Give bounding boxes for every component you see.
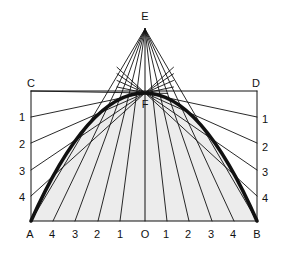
left-mark-label-1: 1	[19, 112, 25, 123]
bottom-mark-label-4: 1	[117, 229, 123, 240]
diagram-drawing	[0, 0, 282, 256]
point-label-f: F	[142, 99, 149, 110]
right-mark-label-2: 2	[262, 142, 268, 153]
point-label-e: E	[141, 11, 148, 22]
bottom-mark-label-6: 2	[185, 229, 191, 240]
bottom-mark-label-7: 3	[208, 229, 214, 240]
left-mark-label-4: 4	[19, 192, 25, 203]
point-label-d: D	[252, 78, 260, 89]
parabola-construction-diagram: ECDFABO1234123443211234	[0, 0, 282, 256]
bottom-mark-label-3: 2	[94, 229, 100, 240]
right-mark-label-1: 1	[262, 114, 268, 125]
bottom-mark-label-8: 4	[230, 229, 236, 240]
point-label-b: B	[253, 229, 260, 240]
right-mark-label-4: 4	[262, 193, 268, 204]
bottom-mark-label-5: 1	[163, 229, 169, 240]
left-mark-label-3: 3	[19, 166, 25, 177]
right-mark-label-3: 3	[262, 167, 268, 178]
point-label-a: A	[26, 229, 33, 240]
bottom-mark-label-1: 4	[49, 229, 55, 240]
point-label-c: C	[27, 78, 35, 89]
bottom-mark-label-2: 3	[72, 229, 78, 240]
left-mark-label-2: 2	[19, 139, 25, 150]
point-label-o: O	[141, 229, 150, 240]
